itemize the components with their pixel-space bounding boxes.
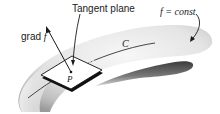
curve-c-label: C bbox=[122, 39, 129, 49]
level-surface-diagram bbox=[0, 0, 220, 114]
surface-equation-label: f = const bbox=[160, 7, 196, 17]
grad-f-symbol: f bbox=[44, 31, 47, 42]
grad-text: grad bbox=[21, 31, 44, 42]
surface-const-text: = const bbox=[163, 6, 196, 17]
tangent-plane-label: Tangent plane bbox=[72, 4, 135, 14]
point-p-label: P bbox=[67, 75, 73, 84]
grad-f-label: grad f bbox=[21, 32, 47, 42]
